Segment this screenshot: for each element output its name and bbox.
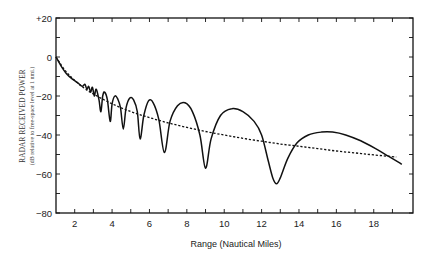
axis-ticks: 24681012141618+200−20−40−60−80	[36, 13, 413, 230]
x-axis-label: Range (Nautical Miles)	[190, 239, 281, 249]
x-tick-label: 6	[147, 218, 152, 229]
y-tick-label: −40	[36, 130, 52, 141]
y-axis-label: RADAR RECEIVED POWER	[19, 69, 27, 162]
x-tick-label: 16	[331, 218, 342, 229]
free-space-level-line	[56, 57, 396, 157]
y-tick-label: +20	[36, 13, 52, 24]
x-tick-label: 4	[109, 218, 114, 229]
x-tick-label: 18	[368, 218, 379, 229]
y-tick-label: −80	[36, 208, 52, 219]
y-tick-label: −60	[36, 169, 52, 180]
x-tick-label: 10	[219, 218, 230, 229]
x-tick-label: 12	[256, 218, 267, 229]
radar-power-chart: 24681012141618+200−20−40−60−80 Range (Na…	[0, 0, 425, 255]
multipath-power-line	[56, 57, 402, 184]
x-tick-label: 8	[184, 218, 189, 229]
x-tick-label: 14	[294, 218, 305, 229]
x-tick-label: 2	[72, 218, 77, 229]
data-series	[56, 57, 402, 184]
y-tick-label: 0	[47, 52, 52, 63]
y-axis-sublabel: (dB relative to free-space level at 1 nm…	[29, 67, 36, 166]
y-tick-label: −20	[36, 91, 52, 102]
